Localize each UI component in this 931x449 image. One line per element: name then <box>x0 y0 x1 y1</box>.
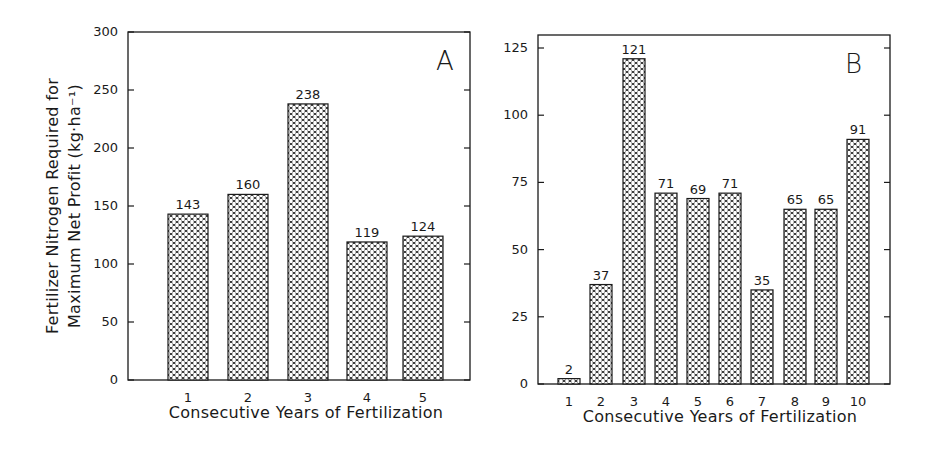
bar-value-label: 65 <box>818 192 835 207</box>
bar <box>288 104 328 380</box>
panel-b-chart: 0255075100125 23712171697135656591 12345… <box>503 35 890 426</box>
bar-value-label: 37 <box>593 268 610 283</box>
bar <box>655 193 677 384</box>
bar <box>815 209 837 384</box>
y-tick-label: 50 <box>511 242 528 257</box>
x-tick-label: 1 <box>565 394 573 409</box>
panel-a-chart: 050100150200250300 143160238119124 12345… <box>43 24 470 422</box>
y-tick-label: 200 <box>93 140 118 155</box>
bar <box>347 242 387 380</box>
y-tick-label: 150 <box>93 198 118 213</box>
bar-value-label: 160 <box>236 177 261 192</box>
y-tick-label: 50 <box>101 314 118 329</box>
bar <box>590 285 612 384</box>
bar <box>784 209 806 384</box>
bar-value-label: 69 <box>690 182 707 197</box>
bar-value-label: 65 <box>787 192 804 207</box>
bar-value-label: 71 <box>722 176 739 191</box>
panel-b-x-axis-title: Consecutive Years of Fertilization <box>583 407 858 426</box>
bar <box>847 139 869 384</box>
y-tick-label: 300 <box>93 24 118 39</box>
bar-value-label: 124 <box>411 219 436 234</box>
bar-value-label: 71 <box>658 176 675 191</box>
bar-value-label: 2 <box>565 362 573 377</box>
y-tick-label: 250 <box>93 82 118 97</box>
y-tick-label: 0 <box>520 376 528 391</box>
bar-value-label: 91 <box>850 122 867 137</box>
y-tick-label: 25 <box>511 309 528 324</box>
panel-b-bars: 23712171697135656591 <box>558 42 869 384</box>
panel-a-bars: 143160238119124 <box>168 87 443 380</box>
bar <box>403 236 443 380</box>
panel-a-y-axis-title-line2: Maximum Net Profit (kg·ha⁻¹) <box>65 84 84 328</box>
panel-b-letter: B <box>845 49 862 79</box>
bar-value-label: 35 <box>754 273 771 288</box>
bar <box>168 214 208 380</box>
bar-value-label: 119 <box>355 225 380 240</box>
bar-value-label: 238 <box>296 87 321 102</box>
bar <box>623 59 645 384</box>
bar <box>558 379 580 384</box>
y-tick-label: 125 <box>503 40 528 55</box>
bar <box>228 194 268 380</box>
bar-value-label: 121 <box>622 42 647 57</box>
panel-a-letter: A <box>436 46 454 76</box>
bar-value-label: 143 <box>176 197 201 212</box>
bar <box>751 290 773 384</box>
y-tick-label: 100 <box>93 256 118 271</box>
y-tick-label: 100 <box>503 107 528 122</box>
panel-a-y-axis-title-line1: Fertilizer Nitrogen Required for <box>43 78 62 334</box>
y-tick-label: 0 <box>110 372 118 387</box>
figure: 050100150200250300 143160238119124 12345… <box>0 0 931 449</box>
bar <box>719 193 741 384</box>
y-tick-label: 75 <box>511 174 528 189</box>
panel-a-x-axis-title: Consecutive Years of Fertilization <box>169 403 444 422</box>
bar <box>687 199 709 384</box>
